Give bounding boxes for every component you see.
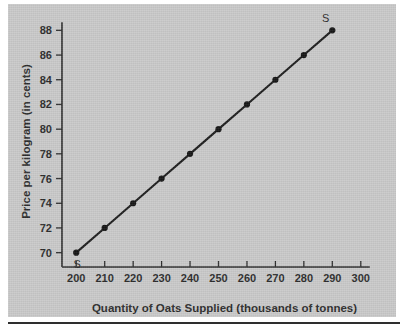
x-tick-label: 250 bbox=[209, 272, 227, 284]
page-canvas: 70727476788082848688 2002102202302402502… bbox=[0, 0, 408, 334]
data-point bbox=[158, 175, 164, 181]
x-tick-label: 210 bbox=[96, 272, 114, 284]
x-tick-label: 260 bbox=[238, 272, 256, 284]
data-point bbox=[215, 126, 221, 132]
figure-panel: 70727476788082848688 2002102202302402502… bbox=[8, 4, 396, 317]
y-tick-label: 82 bbox=[40, 98, 52, 110]
x-tick-label: 220 bbox=[124, 272, 142, 284]
curve-label-S: S bbox=[74, 258, 81, 270]
data-point bbox=[102, 225, 108, 231]
data-point bbox=[187, 151, 193, 157]
y-tick-label: 70 bbox=[40, 247, 52, 259]
x-tick-label: 230 bbox=[152, 272, 170, 284]
data-point bbox=[130, 200, 136, 206]
y-axis-title: Price per kilogram (in cents) bbox=[20, 64, 32, 219]
data-point bbox=[301, 52, 307, 58]
y-axis-ticks: 70727476788082848688 bbox=[40, 24, 62, 258]
x-tick-label: 270 bbox=[266, 272, 284, 284]
x-tick-label: 290 bbox=[323, 272, 341, 284]
y-tick-label: 74 bbox=[40, 197, 53, 209]
data-point bbox=[244, 101, 250, 107]
x-axis-title: Quantity of Oats Supplied (thousands of … bbox=[92, 302, 357, 314]
y-tick-label: 88 bbox=[40, 24, 52, 36]
y-tick-label: 76 bbox=[40, 173, 52, 185]
data-point bbox=[329, 27, 335, 33]
series-line-S bbox=[76, 30, 332, 252]
x-tick-label: 300 bbox=[352, 272, 370, 284]
data-point bbox=[272, 77, 278, 83]
y-tick-label: 86 bbox=[40, 49, 52, 61]
curve-label-S: S bbox=[322, 12, 329, 24]
y-tick-label: 72 bbox=[40, 222, 52, 234]
supply-series bbox=[73, 27, 335, 255]
supply-curve-chart: 70727476788082848688 2002102202302402502… bbox=[8, 4, 396, 317]
x-tick-label: 280 bbox=[295, 272, 313, 284]
curve-annotations: SS bbox=[74, 12, 330, 269]
x-tick-label: 240 bbox=[181, 272, 199, 284]
data-point bbox=[73, 250, 79, 256]
y-tick-label: 80 bbox=[40, 123, 52, 135]
x-tick-label: 200 bbox=[67, 272, 85, 284]
page-horizontal-rule bbox=[8, 322, 400, 324]
x-axis-ticks: 200210220230240250260270280290300 bbox=[67, 261, 370, 284]
y-tick-label: 78 bbox=[40, 148, 52, 160]
y-tick-label: 84 bbox=[40, 74, 53, 86]
